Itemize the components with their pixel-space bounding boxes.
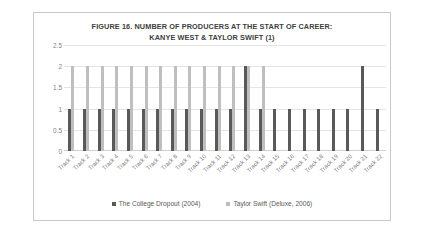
legend-swatch-icon (112, 202, 116, 206)
bar-series-b (115, 66, 118, 151)
y-axis-tick: 2.5 (40, 42, 62, 49)
x-axis-labels: Track 1Track 2Track 3Track 4Track 5Track… (64, 152, 386, 192)
bar-group (225, 45, 240, 151)
bar-series-b (247, 66, 250, 151)
bar-group (152, 45, 167, 151)
bar-series-b (203, 66, 206, 151)
bar-series-a (332, 109, 335, 151)
bar-group (64, 45, 79, 151)
x-axis-tick-cell: Track 8 (166, 152, 181, 192)
bar-series-a (361, 66, 364, 151)
bar-series-b (218, 66, 221, 151)
bar-group (328, 45, 343, 151)
bar-series-a (303, 109, 306, 151)
x-axis-tick-cell: Track 7 (152, 152, 167, 192)
bar-group (79, 45, 94, 151)
bar-series-b (159, 66, 162, 151)
x-axis-tick-cell: Track 3 (93, 152, 108, 192)
bar-group (108, 45, 123, 151)
bar-group (313, 45, 328, 151)
y-axis-tick: 0 (40, 148, 62, 155)
x-axis-tick-cell: Track 16 (284, 152, 299, 192)
chart-title-line-2: KANYE WEST & TAYLOR SWIFT (1) (34, 32, 390, 43)
y-axis: 00.511.522.5 (40, 45, 62, 151)
bar-group (371, 45, 386, 151)
x-axis-tick-cell: Track 21 (357, 152, 372, 192)
bar-group (342, 45, 357, 151)
bar-series-b (262, 66, 265, 151)
legend-swatch-icon (226, 202, 230, 206)
bar-series-b (145, 66, 148, 151)
bar-series-b (86, 66, 89, 151)
bar-group (240, 45, 255, 151)
bar-series-a (288, 109, 291, 151)
x-axis-tick-cell: Track 2 (79, 152, 94, 192)
legend-label: Taylor Swift (Deluxe, 2006) (233, 200, 312, 207)
bar-group (254, 45, 269, 151)
bar-group (284, 45, 299, 151)
x-axis-tick-cell: Track 1 (64, 152, 79, 192)
bar-series-b (71, 66, 74, 151)
y-axis-tick: 0.5 (40, 126, 62, 133)
chart-title: FIGURE 16. NUMBER OF PRODUCERS AT THE ST… (34, 21, 390, 43)
chart-legend: The College Dropout (2004)Taylor Swift (… (34, 200, 390, 207)
bar-group (210, 45, 225, 151)
y-axis-tick: 1 (40, 105, 62, 112)
bar-series-b (174, 66, 177, 151)
x-axis-tick-cell: Track 5 (123, 152, 138, 192)
bar-group (357, 45, 372, 151)
bar-group (123, 45, 138, 151)
bar-group (196, 45, 211, 151)
x-axis-tick-cell: Track 18 (313, 152, 328, 192)
bar-group (269, 45, 284, 151)
bar-series-a (346, 109, 349, 151)
legend-label: The College Dropout (2004) (119, 200, 201, 207)
x-axis-tick-cell: Track 13 (240, 152, 255, 192)
bar-series-a (273, 109, 276, 151)
bar-series-a (376, 109, 379, 151)
x-axis-tick-cell: Track 6 (137, 152, 152, 192)
bar-group (298, 45, 313, 151)
bar-series-container (64, 45, 386, 151)
bar-series-a (317, 109, 320, 151)
plot-area (64, 45, 386, 151)
bar-series-b (130, 66, 133, 151)
bar-series-b (232, 66, 235, 151)
bar-group (93, 45, 108, 151)
legend-item[interactable]: Taylor Swift (Deluxe, 2006) (226, 200, 312, 207)
figure-frame: FIGURE 16. NUMBER OF PRODUCERS AT THE ST… (33, 12, 391, 221)
plot-wrapper: 00.511.522.5 Track 1Track 2Track 3Track … (34, 45, 392, 221)
bar-series-b (188, 66, 191, 151)
y-axis-tick: 1.5 (40, 84, 62, 91)
bar-group (181, 45, 196, 151)
x-axis-tick-cell: Track 15 (269, 152, 284, 192)
bar-group (137, 45, 152, 151)
legend-item[interactable]: The College Dropout (2004) (112, 200, 201, 207)
x-axis-tick-cell: Track 4 (108, 152, 123, 192)
y-axis-tick: 2 (40, 63, 62, 70)
x-axis-tick-cell: Track 10 (196, 152, 211, 192)
x-axis-tick-cell: Track 22 (371, 152, 386, 192)
chart-title-line-1: FIGURE 16. NUMBER OF PRODUCERS AT THE ST… (34, 21, 390, 32)
bar-group (166, 45, 181, 151)
bar-series-b (101, 66, 104, 151)
